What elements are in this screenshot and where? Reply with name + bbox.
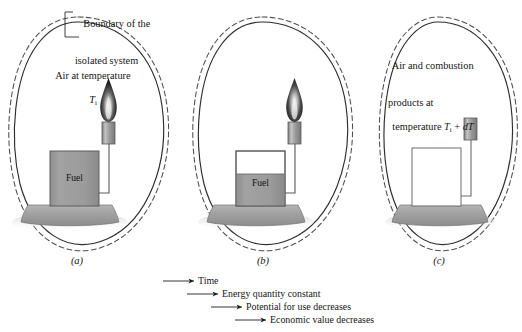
panel-a-caption-line1: Air at temperature <box>55 70 130 81</box>
legend-item-potential-for-use: Potential for use decreases <box>246 301 351 312</box>
panel-b-fuel-label: Fuel <box>236 177 285 188</box>
panel-c-caption-line3: temperature Ti + dT <box>392 121 473 132</box>
legend-item-economic-value: Economic value decreases <box>270 314 374 325</box>
legend-arrow-0 <box>163 279 194 284</box>
panel-label-c: (c) <box>428 255 450 267</box>
legend-item-energy-quantity: Energy quantity constant <box>222 288 321 299</box>
panel-c-caption: Air and combustion products at temperatu… <box>382 48 504 146</box>
legend-arrow-1 <box>187 292 218 297</box>
panel-a-feed-pipe <box>99 137 109 193</box>
panel-label-a: (a) <box>66 255 88 267</box>
legend-arrow-2 <box>211 305 242 310</box>
panel-b-base <box>207 205 305 226</box>
panel-c-base <box>392 205 488 226</box>
panel-a-caption: Air at temperature Ti <box>29 58 147 120</box>
panel-c-fuel-tank <box>412 148 461 206</box>
panel-b <box>193 17 353 251</box>
panel-c-caption-plus: + <box>452 121 463 132</box>
panel-a-base <box>21 205 119 226</box>
legend-item-time: Time <box>198 275 219 286</box>
panel-c-caption-line3-prefix: temperature <box>392 121 444 132</box>
panel-b-burner <box>288 122 301 144</box>
boundary-label-line1: Boundary of the <box>83 18 150 29</box>
panel-a-burner <box>102 122 115 144</box>
figure-canvas: Boundary of the isolated system Air at t… <box>0 0 522 332</box>
symbol-dT: dT <box>463 121 474 132</box>
symbol-T-subscript: i <box>95 99 97 107</box>
panel-c-caption-line1: Air and combustion <box>392 60 474 71</box>
panel-a-fuel-label: Fuel <box>50 172 99 183</box>
panel-c-caption-line2: products at <box>382 97 504 109</box>
legend-arrow-3 <box>235 318 266 323</box>
panel-a-caption-symbol: Ti <box>89 94 97 105</box>
panel-label-b: (b) <box>252 255 274 267</box>
panel-b-feed-pipe <box>285 137 295 193</box>
